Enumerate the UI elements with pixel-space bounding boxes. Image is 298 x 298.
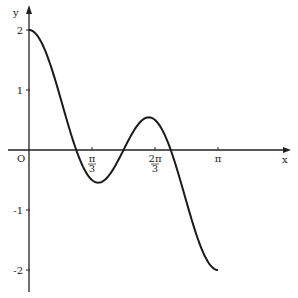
x-tick-label: 3 bbox=[152, 163, 158, 174]
y-axis-arrow-icon bbox=[26, 5, 32, 14]
chart: xyO21-1-2π32π3π bbox=[0, 0, 298, 298]
x-tick-label: 3 bbox=[89, 163, 95, 174]
y-tick-label: 1 bbox=[17, 85, 23, 96]
x-axis-label: x bbox=[282, 154, 288, 165]
y-tick-label: -1 bbox=[13, 205, 23, 216]
y-tick-label: -2 bbox=[13, 265, 23, 276]
origin-label: O bbox=[17, 153, 25, 164]
y-axis-label: y bbox=[12, 7, 19, 18]
x-axis-arrow-icon bbox=[283, 147, 291, 153]
x-tick-label: π bbox=[215, 153, 222, 164]
axes: xyO21-1-2π32π3π bbox=[8, 5, 291, 292]
y-tick-label: 2 bbox=[17, 25, 23, 36]
